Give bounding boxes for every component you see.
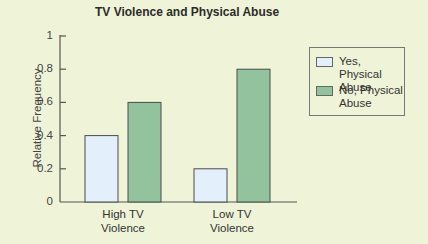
legend: Yes, Physical Abuse No, Physical Abuse	[309, 47, 405, 116]
legend-label-no-line1: No, Physical	[339, 84, 403, 96]
bar-yes-high	[85, 136, 118, 202]
y-tick-label: 0.4	[33, 129, 53, 141]
bar-no-high	[128, 102, 161, 202]
y-tick-label: 1	[33, 29, 53, 41]
y-tick-label: 0.2	[33, 162, 53, 174]
legend-label-no-line2: Abuse	[339, 97, 372, 109]
bar-yes-low	[194, 169, 227, 202]
x-tick-label: High TVViolence	[83, 207, 163, 235]
bars	[85, 69, 270, 202]
y-tick-label: 0	[33, 195, 53, 207]
y-tick-label: 0.8	[33, 62, 53, 74]
legend-swatch-no	[316, 86, 333, 96]
bar-no-low	[237, 69, 270, 202]
x-tick-label: Low TVViolence	[192, 207, 272, 235]
legend-label-yes-line1: Yes, Physical	[339, 55, 382, 80]
legend-swatch-yes	[316, 57, 333, 67]
legend-item-no: No, Physical Abuse	[316, 84, 403, 110]
y-tick-label: 0.6	[33, 95, 53, 107]
